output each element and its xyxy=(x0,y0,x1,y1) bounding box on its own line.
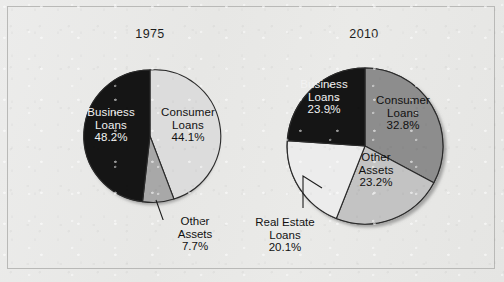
pie-1975-callout-other-assets-line1: Other xyxy=(164,215,226,228)
pie-2010-label-other-assets-line2: Assets xyxy=(344,164,408,177)
pie-1975-label-consumer-loans: Consumer Loans 44.1% xyxy=(152,106,224,144)
pie-1975-label-business-loans-line1: Business xyxy=(76,106,146,119)
pie-2010-label-other-assets: Other Assets 23.2% xyxy=(344,151,408,189)
pie-1975-label-business-loans: Business Loans 48.2% xyxy=(76,106,146,144)
pie-2010-callout-value-real-estate-loans: 20.1% xyxy=(240,241,330,254)
chart-title-1975: 1975 xyxy=(104,27,196,41)
pie-2010-label-consumer-loans-line1: Consumer xyxy=(366,94,440,107)
pie-1975-label-consumer-loans-line1: Consumer xyxy=(152,106,224,119)
pie-2010-label-other-assets-line1: Other xyxy=(344,151,408,164)
pie-2010-label-business-loans-line2: Loans xyxy=(288,91,360,104)
pie-2010-label-business-loans: Business Loans 23.9% xyxy=(288,78,360,116)
pie-2010-callout-real-estate-loans-line2: Loans xyxy=(240,229,330,242)
pie-2010-callout-real-estate-loans-line1: Real Estate xyxy=(240,216,330,229)
pie-2010-value-business-loans: 23.9% xyxy=(288,103,360,116)
pie-2010-value-other-assets: 23.2% xyxy=(344,176,408,189)
pie-1975-value-business-loans: 48.2% xyxy=(76,131,146,144)
pie-2010-value-consumer-loans: 32.8% xyxy=(366,119,440,132)
chart-title-2010: 2010 xyxy=(318,27,410,41)
pie-1975-callout-other-assets: Other Assets 7.7% xyxy=(164,215,226,253)
pie-2010-callout-real-estate-loans: Real Estate Loans 20.1% xyxy=(240,216,330,254)
pie-1975-callout-other-assets-line2: Assets xyxy=(164,228,226,241)
pie-2010-label-business-loans-line1: Business xyxy=(288,78,360,91)
pie-2010-label-consumer-loans: Consumer Loans 32.8% xyxy=(366,94,440,132)
pie-1975-callout-value-other-assets: 7.7% xyxy=(164,240,226,253)
pie-1975-value-consumer-loans: 44.1% xyxy=(152,131,224,144)
pie-1975-label-consumer-loans-line2: Loans xyxy=(152,119,224,132)
pie-2010-label-consumer-loans-line2: Loans xyxy=(366,107,440,120)
pie-1975-label-business-loans-line2: Loans xyxy=(76,119,146,132)
figure-container: 1975 Business Loans 48.2% xyxy=(0,0,504,282)
